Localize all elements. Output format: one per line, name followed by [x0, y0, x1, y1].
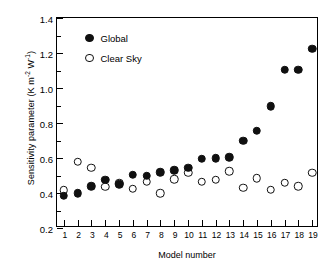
x-axis-tick: 7: [147, 220, 148, 226]
filled-circle-icon: [85, 34, 94, 43]
x-axis-tick: 12: [216, 220, 217, 226]
x-axis-tick-label: 2: [76, 230, 81, 240]
x-axis-tick-label: 19: [308, 230, 317, 240]
y-axis-minor-tick: [57, 36, 61, 37]
data-point-global: [266, 102, 275, 111]
data-point-clear-sky: [87, 163, 96, 172]
y-axis-minor-tick: [57, 106, 61, 107]
data-point-global: [156, 168, 165, 177]
data-point-clear-sky: [129, 184, 138, 193]
x-axis-tick-label: 17: [281, 230, 290, 240]
x-axis-tick: 14: [243, 220, 244, 226]
x-axis-tick: 2: [78, 220, 79, 226]
x-axis-tick-label: 9: [173, 230, 178, 240]
x-axis-tick-label: 1: [63, 230, 68, 240]
data-point-clear-sky: [198, 177, 207, 186]
x-axis-tick: 3: [91, 220, 92, 226]
x-axis-tick: 5: [119, 220, 120, 226]
data-point-clear-sky: [73, 157, 82, 166]
x-axis-tick: 4: [105, 220, 106, 226]
data-point-global: [253, 127, 262, 136]
y-axis-tick-label: 1.0: [40, 84, 53, 95]
y-axis-tick: 1.4: [57, 18, 63, 19]
x-axis-tick-label: 18: [295, 230, 304, 240]
x-axis-tick-label: 14: [239, 230, 248, 240]
x-axis-tick-label: 13: [226, 230, 235, 240]
y-axis-tick-label: 0.6: [40, 154, 53, 165]
y-axis-label-prefix: Sensitivity parameter (K m: [26, 77, 36, 185]
y-axis-label-exponent-2: -1: [24, 54, 31, 60]
data-point-global: [184, 163, 193, 172]
legend-item: Clear Sky: [85, 48, 142, 68]
x-axis-tick: 9: [174, 220, 175, 226]
x-axis-tick: 11: [202, 220, 203, 226]
data-point-clear-sky: [280, 178, 289, 187]
data-point-global: [170, 166, 179, 175]
data-point-clear-sky: [266, 185, 275, 194]
data-point-global: [73, 189, 82, 198]
data-point-global: [294, 65, 303, 74]
data-point-global: [225, 153, 234, 162]
y-axis-tick-label: 1.4: [40, 14, 53, 25]
open-circle-icon: [85, 54, 94, 63]
y-axis-minor-tick: [57, 211, 61, 212]
x-axis-tick: 17: [285, 220, 286, 226]
y-axis-label-mid: W: [26, 60, 36, 71]
x-axis-tick: 18: [298, 220, 299, 226]
x-axis-tick: 10: [188, 220, 189, 226]
y-axis-minor-tick: [57, 141, 61, 142]
data-point-clear-sky: [225, 167, 234, 176]
data-point-global: [101, 176, 110, 185]
x-axis-tick-label: 8: [159, 230, 164, 240]
data-point-clear-sky: [156, 189, 165, 198]
x-axis-tick: 13: [229, 220, 230, 226]
y-axis-tick-label: 0.2: [40, 224, 53, 235]
legend-item-label: Global: [101, 33, 128, 44]
plot-area: 0.20.40.60.81.01.21.4 123456789101112131…: [56, 17, 318, 227]
legend-item: Global: [85, 28, 142, 48]
data-point-global: [142, 171, 151, 180]
x-axis-tick-label: 7: [145, 230, 150, 240]
data-point-clear-sky: [308, 169, 317, 178]
data-point-clear-sky: [170, 175, 179, 184]
y-axis-label-exponent-1: -2: [24, 71, 31, 77]
x-axis-tick-label: 5: [118, 230, 123, 240]
x-axis-tick-label: 15: [253, 230, 262, 240]
x-axis-tick: 8: [160, 220, 161, 226]
data-point-clear-sky: [294, 182, 303, 191]
data-point-clear-sky: [211, 176, 220, 185]
x-axis-tick: 1: [64, 220, 65, 226]
data-point-global: [198, 155, 207, 164]
y-axis-minor-tick: [57, 176, 61, 177]
data-point-global: [308, 44, 317, 53]
chart-figure: Sensitivity parameter (K m-2 W-1) 0.20.4…: [0, 0, 332, 271]
x-axis-tick-label: 3: [90, 230, 95, 240]
x-axis-tick-label: 6: [131, 230, 136, 240]
y-axis-tick: 1.2: [57, 53, 63, 54]
y-axis-minor-tick: [57, 71, 61, 72]
y-axis-tick: 0.2: [57, 228, 63, 229]
x-axis-tick-label: 12: [212, 230, 221, 240]
chart-legend: GlobalClear Sky: [85, 28, 142, 68]
y-axis-label-suffix: ): [26, 51, 36, 54]
data-point-global: [211, 154, 220, 163]
x-axis-tick: 15: [257, 220, 258, 226]
data-point-global: [280, 65, 289, 74]
legend-item-label: Clear Sky: [101, 53, 142, 64]
y-axis-label: Sensitivity parameter (K m-2 W-1): [24, 3, 36, 233]
y-axis-tick: 1.0: [57, 88, 63, 89]
x-axis-tick-label: 16: [267, 230, 276, 240]
x-axis-tick-label: 10: [184, 230, 193, 240]
data-point-global: [87, 182, 96, 191]
data-point-global: [129, 170, 138, 179]
x-axis-tick: 19: [312, 220, 313, 226]
y-axis-tick-label: 0.8: [40, 119, 53, 130]
x-axis-tick-label: 4: [104, 230, 109, 240]
y-axis-tick: 0.6: [57, 158, 63, 159]
data-point-clear-sky: [253, 174, 262, 183]
x-axis-label: Model number: [56, 250, 318, 260]
data-point-global: [239, 136, 248, 145]
x-axis-tick: 16: [271, 220, 272, 226]
data-point-global: [115, 180, 124, 189]
y-axis-tick: 0.8: [57, 123, 63, 124]
